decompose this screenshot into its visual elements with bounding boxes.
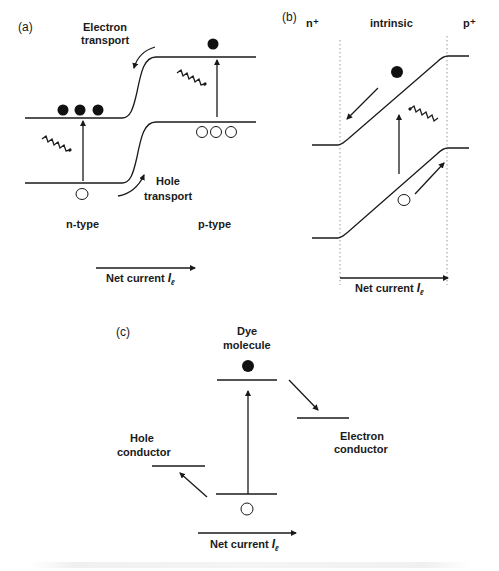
hole xyxy=(226,127,237,138)
electron xyxy=(75,105,86,116)
n-plus-label: n⁺ xyxy=(306,17,319,29)
hole xyxy=(241,503,253,515)
panel-b-label: (b) xyxy=(282,10,297,24)
valence-band-b xyxy=(312,148,469,238)
hole xyxy=(211,127,222,138)
electron-drift-arrow xyxy=(347,88,378,119)
photon-wave-icon xyxy=(410,106,438,121)
panel-c-label: (c) xyxy=(116,325,130,339)
panel-a: (a) Electron transport Hole transport n-… xyxy=(18,20,256,286)
hole-drift-arrow xyxy=(415,163,444,194)
panel-c: (c) Dye molecule Electron conductor Hole… xyxy=(116,325,388,552)
electron xyxy=(242,360,254,372)
photon-wave-icon xyxy=(42,136,70,151)
p-plus-label: p⁺ xyxy=(463,17,476,29)
electron xyxy=(58,105,69,116)
intrinsic-label: intrinsic xyxy=(370,17,413,29)
dye-molecule-label: Dye molecule xyxy=(223,325,271,351)
hole-injection-arrow xyxy=(180,473,207,497)
electron xyxy=(391,66,403,78)
panel-a-label: (a) xyxy=(18,20,33,34)
conduction-band-b xyxy=(312,56,469,145)
electron-conductor-label: Electron conductor xyxy=(334,430,388,455)
electron xyxy=(93,105,104,116)
cropped-caption-strip xyxy=(30,562,470,568)
net-current-label: Net current Iℓ xyxy=(106,271,175,286)
band-diagram-figure: (a) Electron transport Hole transport n-… xyxy=(0,0,499,571)
hole-transport-label: Hole transport xyxy=(144,175,193,202)
net-current-label: Net current Iℓ xyxy=(355,281,424,296)
n-type-label: n-type xyxy=(66,218,99,230)
p-type-label: p-type xyxy=(198,218,231,230)
electron-injection-arrow xyxy=(289,380,318,410)
hole xyxy=(76,189,88,200)
hole xyxy=(197,127,208,138)
electron-transport-label: Electron transport xyxy=(81,21,130,46)
hole xyxy=(398,195,410,206)
hole-conductor-label: Hole conductor xyxy=(117,432,171,458)
photon-wave-icon xyxy=(177,70,205,85)
hole-transport-arrow xyxy=(118,175,144,196)
electron xyxy=(208,39,219,50)
panel-b: (b) n⁺ intrinsic p⁺ Net current Iℓ xyxy=(282,10,476,296)
net-current-label: Net current Iℓ xyxy=(210,537,279,552)
